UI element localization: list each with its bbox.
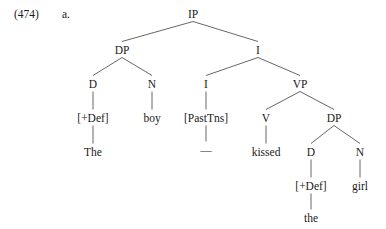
tree-node-the: the bbox=[304, 212, 318, 224]
tree-edge bbox=[258, 58, 300, 76]
tree-node-kissed: kissed bbox=[252, 146, 281, 158]
tree-node-i0: I bbox=[204, 78, 208, 90]
tree-edge bbox=[311, 126, 334, 144]
tree-node-the: The bbox=[84, 146, 102, 158]
tree-node-n1: N bbox=[148, 78, 156, 90]
tree-node-vp: VP bbox=[293, 78, 308, 90]
tree-node-def2: [+Def] bbox=[295, 180, 326, 192]
tree-edge bbox=[206, 58, 258, 76]
tree-edge bbox=[193, 22, 258, 42]
tree-edge bbox=[93, 58, 122, 76]
tree-node-trace: — bbox=[200, 144, 212, 156]
tree-node-pasttns: [PastTns] bbox=[184, 112, 228, 124]
tree-node-n2: N bbox=[356, 146, 364, 158]
tree-node-dp2: DP bbox=[327, 112, 342, 124]
tree-node-ibar: I bbox=[256, 44, 260, 56]
tree-node-v: V bbox=[262, 112, 270, 124]
tree-edge bbox=[300, 92, 334, 110]
tree-node-d1: D bbox=[89, 78, 97, 90]
tree-node-d2: D bbox=[307, 146, 315, 158]
tree-node-girl: girl bbox=[352, 180, 368, 192]
tree-node-def1: [+Def] bbox=[77, 112, 108, 124]
tree-node-dp1: DP bbox=[115, 44, 130, 56]
syntax-tree-figure: (474) a. IPDPIDNIVP[+Def]boy[PastTns]VDP… bbox=[0, 0, 386, 229]
tree-node-boy: boy bbox=[143, 112, 160, 124]
tree-edge bbox=[266, 92, 300, 110]
tree-edge bbox=[122, 58, 152, 76]
tree-node-ip: IP bbox=[188, 8, 198, 20]
tree-edge bbox=[122, 22, 193, 42]
tree-edge bbox=[334, 126, 360, 144]
